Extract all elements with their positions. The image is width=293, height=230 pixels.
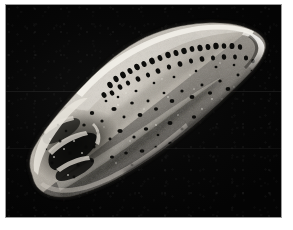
specimen-container — [6, 5, 281, 217]
micrograph-image — [6, 5, 281, 217]
page-root — [0, 0, 293, 230]
micrograph-frame — [5, 4, 282, 218]
valve-body — [6, 5, 281, 217]
ostracod-valve-specimen — [6, 5, 281, 217]
